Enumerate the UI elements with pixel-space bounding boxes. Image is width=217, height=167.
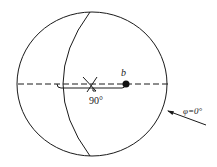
sphere-diagram: b 90° φ=0° bbox=[0, 0, 217, 167]
point-b-label: b bbox=[121, 67, 126, 78]
phi-arrow-head bbox=[167, 111, 174, 115]
point-b bbox=[123, 81, 130, 88]
phi-label: φ=0° bbox=[183, 106, 203, 116]
angle-label: 90° bbox=[89, 95, 103, 106]
